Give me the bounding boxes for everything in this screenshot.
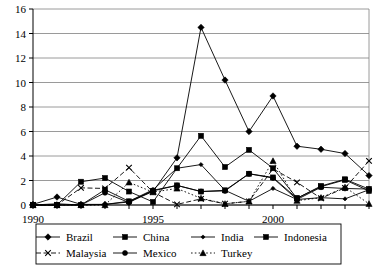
legend-marker-india bbox=[201, 235, 205, 239]
legend-label-malaysia: Malaysia bbox=[66, 247, 106, 259]
datapoint-china-1998 bbox=[223, 165, 228, 170]
y-tick-label-12: 12 bbox=[15, 52, 26, 64]
gridlines-group bbox=[33, 9, 369, 205]
datapoint-mexico-1998 bbox=[223, 188, 228, 193]
series-line-brazil bbox=[33, 27, 369, 204]
legend-marker-china bbox=[123, 235, 128, 240]
y-tick-label-14: 14 bbox=[15, 28, 27, 40]
datapoint-china-1999 bbox=[247, 147, 252, 152]
legend-marker-turkey bbox=[200, 250, 206, 256]
datapoint-mexico-2000 bbox=[271, 176, 276, 181]
datapoint-turkey-2000 bbox=[270, 158, 276, 164]
datapoint-china-1994 bbox=[127, 189, 132, 194]
legend-item-turkey[interactable]: Turkey bbox=[191, 247, 253, 259]
datapoint-brazil-2002 bbox=[318, 146, 324, 152]
datapoint-china-1992 bbox=[79, 179, 84, 184]
legend-label-china: China bbox=[143, 231, 169, 243]
legend-item-mexico[interactable]: Mexico bbox=[113, 247, 177, 259]
datapoint-china-1997 bbox=[199, 133, 204, 138]
x-tick-labels-group: 199019952000 bbox=[22, 205, 369, 225]
legend-marker-brazil bbox=[45, 234, 51, 240]
legend-marker-indonesia bbox=[264, 235, 269, 240]
datapoint-brazil-1997 bbox=[198, 24, 204, 30]
datapoint-mexico-1994 bbox=[127, 200, 132, 205]
datapoint-turkey-2004 bbox=[366, 201, 372, 207]
legend-item-malaysia[interactable]: Malaysia bbox=[36, 247, 106, 259]
datapoint-china-1993 bbox=[103, 176, 108, 181]
y-tick-label-0: 0 bbox=[21, 199, 27, 211]
x-tick-label-2000: 2000 bbox=[262, 213, 285, 225]
line-chart: 0246810121416199019952000BrazilChinaIndi… bbox=[0, 0, 377, 269]
chart-container: 0246810121416199019952000BrazilChinaIndi… bbox=[0, 0, 377, 269]
datapoint-china-1995 bbox=[151, 199, 156, 204]
legend-item-brazil[interactable]: Brazil bbox=[36, 231, 93, 243]
datapoint-indonesia-2003 bbox=[343, 177, 348, 182]
legend-label-india: India bbox=[221, 231, 244, 243]
datapoint-brazil-1996 bbox=[174, 155, 180, 161]
datapoint-mexico-1993 bbox=[103, 190, 108, 195]
datapoint-turkey-1994 bbox=[126, 179, 132, 185]
y-tick-labels-group: 0246810121416 bbox=[15, 3, 33, 211]
datapoint-mexico-1999 bbox=[247, 171, 252, 176]
legend-label-mexico: Mexico bbox=[143, 247, 177, 259]
datapoint-brazil-1999 bbox=[246, 128, 252, 134]
datapoint-malaysia-1994 bbox=[126, 165, 132, 171]
datapoint-mexico-1997 bbox=[199, 189, 204, 194]
datapoint-brazil-1991 bbox=[54, 194, 60, 200]
datapoint-india-2000 bbox=[271, 186, 275, 190]
legend-marker-mexico bbox=[123, 251, 128, 256]
legend-label-indonesia: Indonesia bbox=[284, 231, 327, 243]
y-tick-label-10: 10 bbox=[15, 77, 27, 89]
legend-label-turkey: Turkey bbox=[221, 247, 253, 259]
datapoint-brazil-2001 bbox=[294, 143, 300, 149]
x-tick-label-1995: 1995 bbox=[142, 213, 165, 225]
y-tick-label-16: 16 bbox=[15, 3, 27, 15]
datapoint-india-2003 bbox=[343, 197, 347, 201]
y-tick-label-4: 4 bbox=[21, 150, 27, 162]
datapoint-mexico-2004 bbox=[367, 187, 372, 192]
legend-item-china[interactable]: China bbox=[113, 231, 169, 243]
x-tick-label-1990: 1990 bbox=[22, 213, 45, 225]
legend: BrazilChinaIndiaIndonesiaMalaysiaMexicoT… bbox=[36, 224, 341, 264]
datapoint-mexico-2002 bbox=[319, 185, 324, 190]
datapoint-brazil-2000 bbox=[270, 93, 276, 99]
y-tick-label-8: 8 bbox=[21, 101, 27, 113]
legend-item-india[interactable]: India bbox=[191, 231, 244, 243]
legend-label-brazil: Brazil bbox=[66, 231, 93, 243]
y-tick-label-2: 2 bbox=[21, 175, 27, 187]
legend-item-indonesia[interactable]: Indonesia bbox=[254, 231, 327, 243]
y-tick-label-6: 6 bbox=[21, 126, 27, 138]
